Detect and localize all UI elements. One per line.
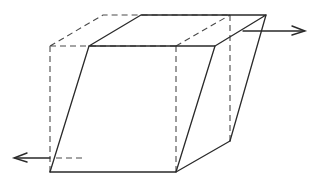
sheared-top-face [89,15,266,46]
sheared-front-left-edge [50,46,89,172]
shear-cube-diagram [0,0,318,183]
sheared-solid-outline [50,15,266,172]
original-cube-outline [50,15,230,172]
bottom-shear-force-arrow [14,153,82,162]
bottom-edges [50,141,230,172]
top-shear-force-arrow [243,26,305,35]
